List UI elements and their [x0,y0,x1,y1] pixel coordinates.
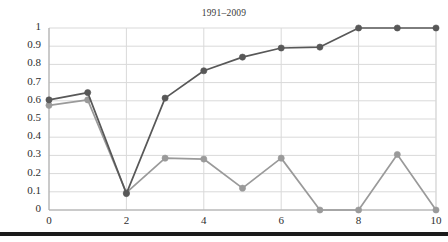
data-point-per-step-7 [317,207,323,213]
y-tick-label: 0.5 [7,111,41,123]
x-tick-label: 8 [344,214,374,226]
x-tick-label: 2 [111,214,141,226]
y-tick-label: 0.9 [7,38,41,50]
data-point-cumulative-7 [317,44,323,50]
x-tick-label: 10 [421,214,448,226]
plot-area [0,0,448,242]
x-tick-label: 6 [266,214,296,226]
data-point-cumulative-4 [201,68,207,74]
series-line-cumulative [49,28,436,194]
data-point-cumulative-10 [433,25,439,31]
y-tick-label: 1 [7,20,41,32]
y-tick-label: 0.3 [7,147,41,159]
data-point-cumulative-0 [46,97,52,103]
y-tick-label: 0.7 [7,75,41,87]
data-point-cumulative-8 [356,25,362,31]
data-point-per-step-9 [394,151,400,157]
bottom-rule [0,232,448,236]
x-tick-label: 4 [189,214,219,226]
data-point-cumulative-2 [123,191,129,197]
data-point-per-step-5 [239,185,245,191]
data-point-cumulative-3 [162,95,168,101]
data-point-cumulative-1 [85,90,91,96]
y-tick-label: 0.6 [7,93,41,105]
y-tick-label: 0.8 [7,56,41,68]
y-tick-label: 0.1 [7,184,41,196]
chart-figure: 1991–2009 00.10.20.30.40.50.60.70.80.91 … [0,0,448,242]
y-tick-label: 0.4 [7,129,41,141]
data-point-per-step-8 [356,207,362,213]
data-point-per-step-6 [278,155,284,161]
data-point-cumulative-5 [239,54,245,60]
data-point-per-step-3 [162,155,168,161]
data-point-cumulative-6 [278,45,284,51]
y-tick-label: 0.2 [7,166,41,178]
data-point-cumulative-9 [394,25,400,31]
data-point-per-step-4 [201,156,207,162]
data-point-per-step-10 [433,207,439,213]
x-tick-label: 0 [34,214,64,226]
y-tick-label: 0 [7,202,41,214]
